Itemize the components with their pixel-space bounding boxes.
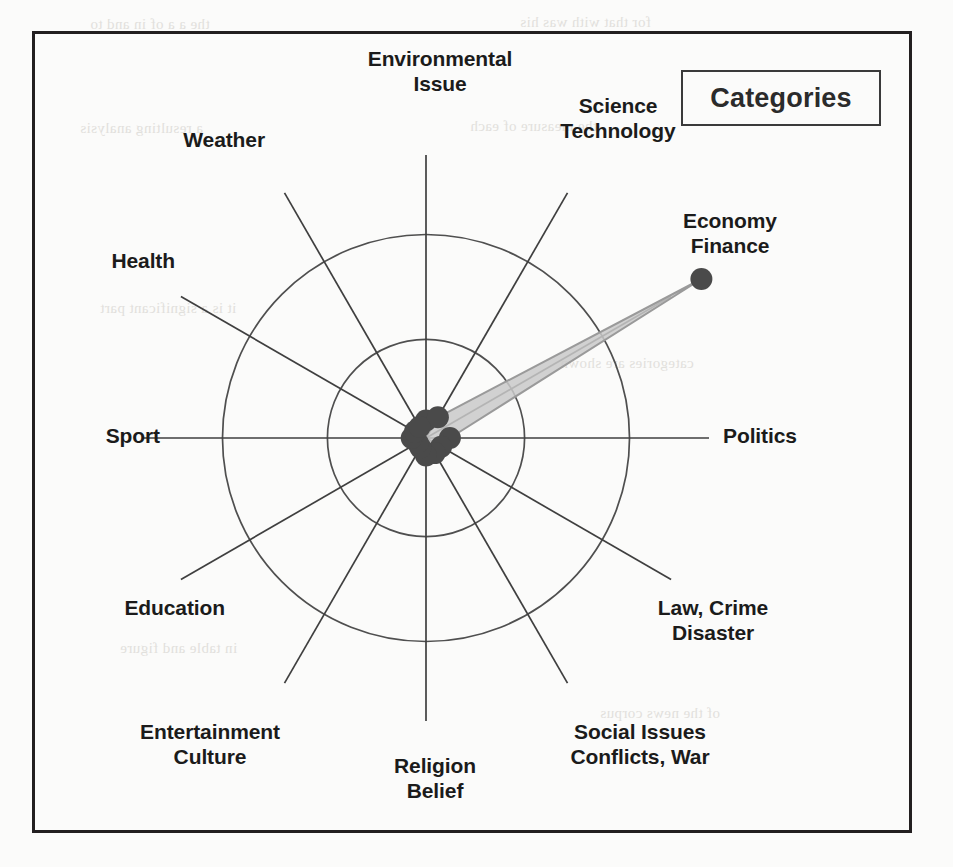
data-point-economy-finance[interactable]: Economy Finance: 1 bbox=[690, 268, 712, 290]
axis-spoke-law-crime-disaster bbox=[426, 438, 671, 580]
axis-label-sport: Sport bbox=[10, 424, 160, 449]
legend-title: Categories bbox=[710, 83, 852, 114]
axis-label-economy-finance: Economy Finance bbox=[645, 209, 815, 259]
data-point-weather[interactable]: Weather: 0.04 bbox=[409, 416, 431, 438]
figure-frame: Environmental Issue: 0.055Science Techno… bbox=[32, 31, 912, 833]
axis-spoke-education bbox=[181, 438, 426, 580]
axis-label-education: Education bbox=[45, 596, 225, 621]
axis-spoke-entertainment-culture bbox=[285, 438, 427, 683]
axis-spoke-health bbox=[181, 297, 426, 439]
axis-label-environmental-issue: Environmental Issue bbox=[340, 47, 540, 97]
axis-label-weather: Weather bbox=[105, 128, 265, 153]
axis-label-health: Health bbox=[35, 249, 175, 274]
axis-spoke-weather bbox=[285, 193, 427, 438]
axis-label-entertainment-culture: Entertainment Culture bbox=[95, 720, 325, 770]
axis-label-religion-belief: Religion Belief bbox=[345, 754, 525, 804]
axis-label-law-crime-disaster: Law, Crime Disaster bbox=[623, 596, 803, 646]
axis-spoke-social-issues-conflicts-war bbox=[426, 438, 568, 683]
axis-label-social-issues: Social Issues Conflicts, War bbox=[535, 720, 745, 770]
ghost-text: for that with was his bbox=[520, 14, 651, 31]
axis-label-science-technology: Science Technology bbox=[533, 94, 703, 144]
legend-box[interactable]: Categories bbox=[681, 70, 881, 126]
axis-label-politics: Politics bbox=[723, 424, 873, 449]
